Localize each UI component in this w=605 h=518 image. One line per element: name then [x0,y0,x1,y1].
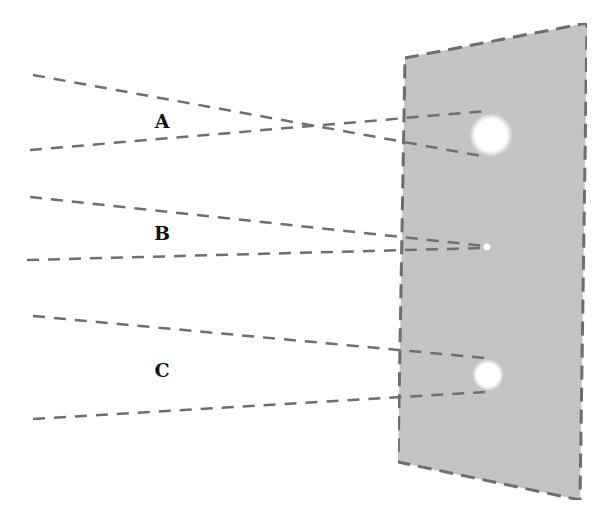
diagram-stage: A B C [0,0,605,518]
spot-a [469,113,513,157]
label-a: A [155,110,170,132]
label-b: B [154,222,170,244]
screen-panel [398,23,587,500]
spot-c [472,359,504,391]
label-c: C [154,359,169,381]
diagram-canvas [0,0,605,518]
spot-b [483,243,491,251]
